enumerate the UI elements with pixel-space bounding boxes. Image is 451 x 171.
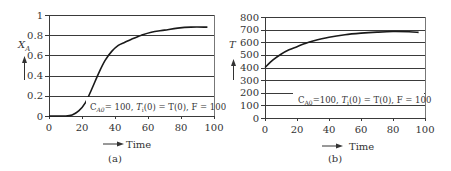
x-tick-label: 60 (355, 124, 368, 135)
annotation-b: CA0=100, Ti(0) = T(0), F = 100 (298, 95, 431, 106)
data-line-t (265, 32, 419, 68)
gridlines-b (261, 17, 426, 121)
y-tick-label: 500 (240, 49, 259, 60)
panel-label-b: (b) (328, 153, 342, 164)
x-tick-label: 0 (262, 124, 268, 135)
x-ticklabels-b: 020406080100 (262, 124, 435, 135)
x-tick-label: 20 (291, 124, 304, 135)
annotation-a: CA0= 100, Ti(0) = T(0), F = 100 (90, 102, 226, 113)
x-tick-label: 60 (142, 122, 155, 133)
y-tick-label: 800 (240, 12, 259, 23)
x-axis-label-a: Time (126, 139, 151, 150)
y-tick-label: 0 (37, 111, 43, 122)
chart-panel-a: 00.20.40.60.81 020406080100 CA0= 100, Ti… (0, 0, 226, 171)
y-tick-label: 0.8 (27, 30, 43, 41)
x-axis-arrow-icon-b (322, 144, 343, 149)
y-tick-label: 0.2 (27, 90, 43, 101)
x-tick-label: 100 (415, 124, 434, 135)
y-tick-label: 700 (240, 24, 259, 35)
x-tick-label: 80 (387, 124, 400, 135)
x-tick-label: 40 (109, 122, 122, 133)
x-axis-label-b: Time (349, 141, 374, 152)
y-tick-label: 400 (240, 62, 259, 73)
x-tick-label: 0 (46, 122, 52, 133)
x-ticklabels-a: 020406080100 (46, 122, 224, 133)
y-tick-label: 200 (240, 87, 259, 98)
y-tick-label: 300 (240, 75, 259, 86)
y-tick-label: 100 (240, 100, 259, 111)
y-ticklabels-a: 00.20.40.60.81 (27, 10, 43, 122)
x-axis-arrow-icon-a (103, 142, 124, 147)
y-axis-arrow-icon-b (231, 59, 236, 80)
y-tick-label: 0.4 (27, 70, 43, 81)
y-ticklabels-b: 0100200300400500600700800 (240, 12, 259, 124)
y-tick-label: 0 (253, 113, 259, 124)
y-axis-label-b: T (229, 39, 237, 50)
x-tick-label: 20 (76, 122, 89, 133)
x-tick-label: 100 (204, 122, 223, 133)
chart-panel-b: 0100200300400500600700800 020406080100 C… (225, 0, 451, 171)
x-tick-label: 80 (175, 122, 188, 133)
y-axis-label-a: XA (17, 39, 30, 53)
y-tick-label: 600 (240, 37, 259, 48)
y-tick-label: 1 (37, 10, 43, 21)
panel-label-a: (a) (108, 153, 122, 164)
x-tick-label: 40 (323, 124, 336, 135)
